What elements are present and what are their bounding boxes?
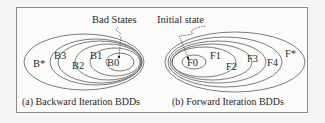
set-b3-inner [58,41,142,83]
set-f4 [168,37,282,87]
set-b3 [50,39,142,85]
label-b0: B0 [107,57,119,68]
label-f3: F3 [247,53,258,64]
label-b-star: B* [33,58,45,69]
annotation-initial-state: Initial state [157,14,204,25]
label-f2: F2 [226,61,237,72]
caption-a: (a) Backward Iteration BDDs [22,96,140,108]
caption-b: (b) Forward Iteration BDDs [172,96,284,108]
panel-forward: F0 F1 F2 F3 F4 F* Initial state (b) Forw… [157,14,305,108]
annotation-bad-states: Bad States [92,14,137,25]
label-b3: B3 [54,50,66,61]
label-f-star: F* [285,48,296,59]
label-b1: B1 [90,50,102,61]
label-f1: F1 [210,50,221,61]
bdd-diagram: B* B3 B2 B1 B0 Bad States (a) Backward I… [0,0,325,123]
panel-backward: B* B3 B2 B1 B0 Bad States (a) Backward I… [22,14,144,108]
label-b2: B2 [72,60,84,71]
label-f4: F4 [267,57,279,68]
